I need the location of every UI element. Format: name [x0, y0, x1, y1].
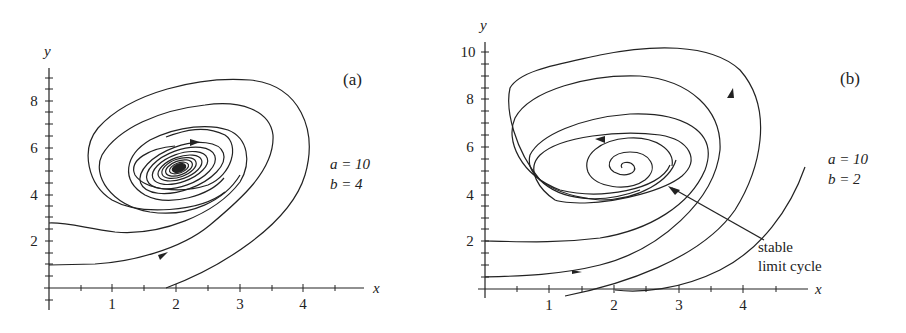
- arrow-icon: [572, 270, 582, 274]
- panel-a-x-tick: 1: [102, 297, 122, 312]
- arrow-icon: [190, 139, 200, 146]
- panel-a-y-tick: 2: [24, 234, 44, 249]
- panel-b-param-a: a = 10: [828, 152, 868, 167]
- panel-b-x-axis-label: x: [815, 282, 822, 297]
- arrow-icon: [668, 186, 680, 195]
- panel-a-y-tick: 4: [24, 188, 44, 203]
- panel-a-param-b: b = 4: [330, 177, 363, 192]
- panel-a-x-tick: 3: [230, 297, 250, 312]
- panel-a-x-tick: 4: [293, 297, 313, 312]
- panel-b-y-tick: 10: [455, 45, 481, 60]
- arrow-icon: [595, 136, 605, 143]
- panel-a-label: (a): [343, 72, 362, 87]
- arrow-icon: [158, 252, 168, 260]
- panel-b-x-tick: 2: [604, 298, 624, 313]
- panel-a-param-a: a = 10: [330, 157, 370, 172]
- arrow-icon: [727, 88, 734, 98]
- panel-b-x-tick: 3: [669, 298, 689, 313]
- annotation-line1: stable: [758, 240, 793, 255]
- panel-b-y-tick: 4: [460, 188, 480, 203]
- panel-b-label: (b): [840, 71, 860, 86]
- annotation-line2: limit cycle: [758, 259, 822, 274]
- panel-a-y-tick: 6: [24, 141, 44, 156]
- panel-b-x-tick: 4: [733, 298, 753, 313]
- panel-a-trajectories: [49, 79, 309, 288]
- panel-a-x-tick: 2: [166, 297, 186, 312]
- panel-b-x-tick: 1: [539, 298, 559, 313]
- panel-a-axes: [44, 68, 364, 310]
- panel-b-param-b: b = 2: [828, 172, 861, 187]
- panel-b-y-tick: 8: [460, 92, 480, 107]
- phase-portraits: [0, 0, 906, 333]
- panel-a-y-tick: 8: [24, 94, 44, 109]
- panel-b-y-tick: 6: [460, 140, 480, 155]
- panel-b-trajectories: [485, 48, 805, 296]
- panel-a-y-axis-label: y: [44, 44, 51, 59]
- panel-b-y-tick: 2: [460, 234, 480, 249]
- panel-b-y-axis-label: y: [480, 18, 487, 33]
- panel-a-x-axis-label: x: [373, 281, 380, 296]
